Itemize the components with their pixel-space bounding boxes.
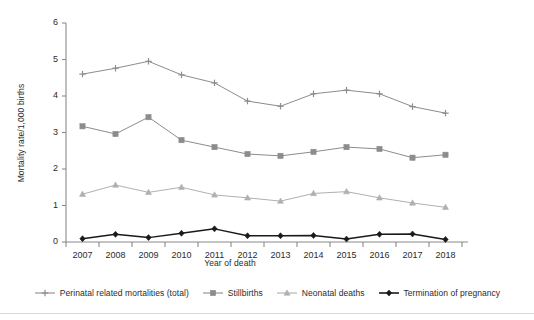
series-4 xyxy=(80,226,448,243)
square-marker-icon xyxy=(202,287,224,299)
x-axis-title: Year of death xyxy=(0,258,460,268)
y-tick-label: 5 xyxy=(40,54,58,64)
legend-item-4[interactable]: Termination of pregnancy xyxy=(378,287,501,299)
y-tick-label: 2 xyxy=(40,163,58,173)
x-axis-ticks xyxy=(66,242,462,247)
legend-item-label: Stillbirths xyxy=(228,288,263,298)
y-tick-label: 6 xyxy=(40,17,58,27)
series-3 xyxy=(80,182,449,210)
y-axis-title: Mortality rate/1,000 births xyxy=(16,63,26,203)
chart-figure: 0123456 20072008200920102011201220132014… xyxy=(0,0,534,320)
y-tick-label: 0 xyxy=(40,236,58,246)
legend-item-label: Termination of pregnancy xyxy=(404,288,501,298)
legend-item-2[interactable]: Stillbirths xyxy=(202,287,263,299)
plus-marker-icon xyxy=(34,287,56,299)
series-1 xyxy=(79,58,448,116)
legend-item-label: Perinatal related mortalities (total) xyxy=(60,288,189,298)
legend-item-1[interactable]: Perinatal related mortalities (total) xyxy=(34,287,189,299)
footer-divider xyxy=(0,313,534,314)
legend-item-label: Neonatal deaths xyxy=(302,288,365,298)
y-tick-label: 1 xyxy=(40,200,58,210)
plot-area: 0123456 20072008200920102011201220132014… xyxy=(0,0,534,278)
y-axis-ticks xyxy=(62,23,66,242)
triangle-marker-icon xyxy=(276,287,298,299)
line-chart-svg xyxy=(0,0,534,278)
chart-legend: Perinatal related mortalities (total)Sti… xyxy=(0,283,534,303)
y-tick-label: 3 xyxy=(40,127,58,137)
y-tick-label: 4 xyxy=(40,90,58,100)
series-2 xyxy=(80,115,448,161)
diamond-marker-icon xyxy=(378,287,400,299)
legend-item-3[interactable]: Neonatal deaths xyxy=(276,287,365,299)
axis-lines xyxy=(66,23,468,242)
